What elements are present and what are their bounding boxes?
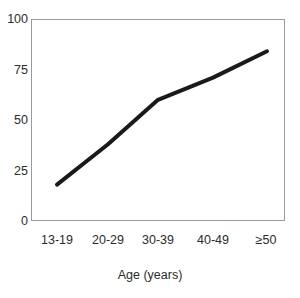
y-axis-tick-label-50: 50 xyxy=(2,114,28,127)
y-axis-tick-labels: 100 75 50 25 0 xyxy=(0,19,28,221)
x-axis-title: Age (years) xyxy=(0,268,300,282)
x-axis-tick-label-20-29: 20-29 xyxy=(92,234,124,247)
y-axis-tick-label-100: 100 xyxy=(2,13,28,26)
y-axis-tick-label-0: 0 xyxy=(2,215,28,228)
y-axis-tick-label-25: 25 xyxy=(2,164,28,177)
x-axis-tick-label-40-49: 40-49 xyxy=(197,234,229,247)
line-chart-figure: 100 75 50 25 0 13-19 20-29 30-39 40-49 ≥… xyxy=(0,0,300,298)
x-axis-tick-labels: 13-19 20-29 30-39 40-49 ≥50 xyxy=(0,234,300,254)
plot-area-frame xyxy=(31,19,285,221)
y-axis-tick-label-75: 75 xyxy=(2,63,28,76)
x-axis-tick-label-13-19: 13-19 xyxy=(41,234,73,247)
x-axis-tick-label-30-39: 30-39 xyxy=(142,234,174,247)
x-axis-tick-label-ge-50: ≥50 xyxy=(256,234,277,247)
